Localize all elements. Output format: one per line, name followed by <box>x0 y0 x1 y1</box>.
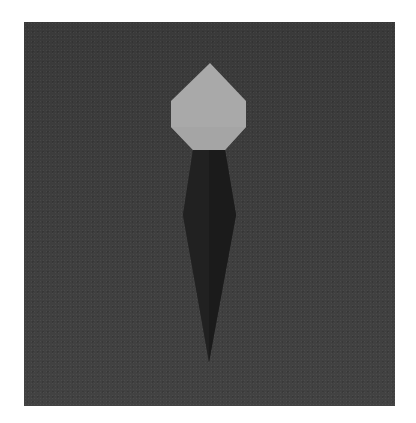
origami-figure <box>0 0 416 423</box>
origami-body <box>183 150 236 362</box>
origami-head <box>171 63 246 150</box>
